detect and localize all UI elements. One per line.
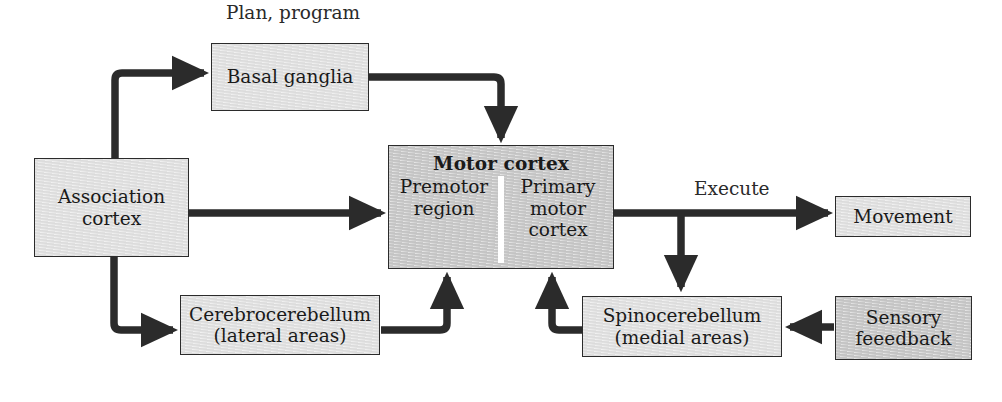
node-cerebrocerebellum-label-line2: (lateral areas): [214, 325, 347, 346]
primary-motor-cortex-line3: cortex: [506, 219, 610, 240]
node-association-cortex-label-line1: Association: [58, 186, 165, 207]
arrow-basal-ganglia-to-motor-cortex: [369, 77, 501, 138]
node-movement-label: Movement: [853, 206, 952, 227]
node-motor-cortex-regions: Premotor region Primary motor cortex: [389, 176, 613, 268]
node-motor-cortex-primary-motor-cortex[interactable]: Primary motor cortex: [506, 176, 610, 239]
node-spinocerebellum[interactable]: Spinocerebellum (medial areas): [582, 296, 782, 357]
node-cerebrocerebellum[interactable]: Cerebrocerebellum (lateral areas): [180, 295, 380, 355]
arrow-cerebrocerebellum-to-motor-cortex: [381, 277, 447, 330]
node-motor-cortex-premotor-region[interactable]: Premotor region: [392, 176, 496, 218]
node-movement[interactable]: Movement: [835, 196, 971, 237]
motor-cortex-divider: [498, 176, 504, 263]
diagram-canvas: Plan, program Execute Basal ganglia Asso…: [0, 0, 1002, 402]
node-basal-ganglia[interactable]: Basal ganglia: [211, 43, 369, 111]
node-association-cortex-label-line2: cortex: [82, 208, 141, 229]
primary-motor-cortex-line1: Primary: [506, 176, 610, 197]
label-plan-program: Plan, program: [226, 2, 360, 23]
node-basal-ganglia-label: Basal ganglia: [227, 66, 353, 87]
arrow-spinocerebellum-to-motor-cortex: [552, 277, 583, 330]
node-sensory-feedback-label-line2: feeedback: [856, 328, 952, 349]
node-association-cortex[interactable]: Association cortex: [34, 158, 189, 257]
node-spinocerebellum-label-line1: Spinocerebellum: [603, 305, 762, 326]
node-sensory-feedback-label-line1: Sensory: [866, 307, 941, 328]
premotor-region-line1: Premotor: [392, 176, 496, 197]
node-spinocerebellum-label-line2: (medial areas): [615, 327, 750, 348]
node-motor-cortex-title: Motor cortex: [433, 153, 569, 174]
arrow-association-to-basal-ganglia: [115, 73, 204, 160]
premotor-region-line2: region: [392, 198, 496, 219]
label-execute: Execute: [694, 178, 770, 199]
node-sensory-feedback[interactable]: Sensory feeedback: [835, 296, 972, 360]
arrow-association-to-cerebrocerebellum: [114, 257, 173, 330]
node-motor-cortex[interactable]: Motor cortex Premotor region Primary mot…: [388, 145, 614, 269]
node-cerebrocerebellum-label-line1: Cerebrocerebellum: [189, 304, 371, 325]
primary-motor-cortex-line2: motor: [506, 198, 610, 219]
